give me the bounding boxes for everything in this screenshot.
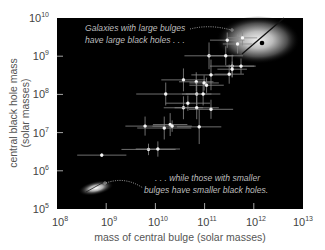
svg-text:108: 108 bbox=[52, 215, 68, 228]
data-point bbox=[170, 124, 174, 128]
scatter-chart: Galaxies with large bulges have large bl… bbox=[0, 0, 325, 250]
svg-text:108: 108 bbox=[33, 87, 49, 100]
data-point bbox=[240, 36, 244, 40]
data-point bbox=[164, 92, 168, 96]
annotation-large-line1: Galaxies with large bulges bbox=[85, 23, 186, 33]
svg-text:106: 106 bbox=[33, 164, 49, 177]
data-point bbox=[227, 72, 231, 76]
annotation-small-line2: bulges have smaller black holes. bbox=[144, 185, 268, 195]
data-point bbox=[224, 54, 228, 58]
annotation-small-line1: . . . while those with smaller bbox=[155, 173, 261, 183]
y-axis-label-line2: (solar masses) bbox=[19, 79, 31, 148]
svg-text:1012: 1012 bbox=[246, 215, 266, 228]
data-point bbox=[239, 64, 243, 68]
y-axis-label-line1: central black hole mass bbox=[7, 58, 19, 168]
data-point bbox=[197, 125, 201, 129]
svg-text:109: 109 bbox=[33, 49, 49, 62]
data-point bbox=[201, 92, 205, 96]
svg-text:109: 109 bbox=[101, 215, 117, 228]
data-point bbox=[235, 42, 239, 46]
data-point bbox=[100, 153, 104, 157]
svg-text:105: 105 bbox=[33, 202, 49, 215]
svg-text:1013: 1013 bbox=[293, 215, 313, 228]
svg-text:1010: 1010 bbox=[148, 215, 168, 228]
y-axis-label: central black hole mass (solar masses) bbox=[7, 58, 31, 168]
y-axis-tick-labels: 1010 109 108 107 106 105 bbox=[29, 11, 49, 215]
data-point bbox=[186, 101, 190, 105]
x-axis-tick-labels: 108 109 1010 1011 1012 1013 bbox=[52, 215, 313, 228]
svg-text:107: 107 bbox=[33, 126, 49, 139]
data-point bbox=[209, 107, 213, 111]
data-point bbox=[225, 38, 229, 42]
data-point bbox=[204, 83, 208, 87]
data-point bbox=[209, 73, 213, 77]
data-point bbox=[156, 147, 160, 151]
svg-text:1010: 1010 bbox=[29, 11, 49, 24]
x-axis-label: mass of central bulge (solar masses) bbox=[94, 231, 266, 243]
data-point bbox=[230, 67, 234, 71]
svg-text:1011: 1011 bbox=[197, 215, 217, 228]
annotation-large-line2: have large black holes . . . bbox=[85, 35, 185, 45]
